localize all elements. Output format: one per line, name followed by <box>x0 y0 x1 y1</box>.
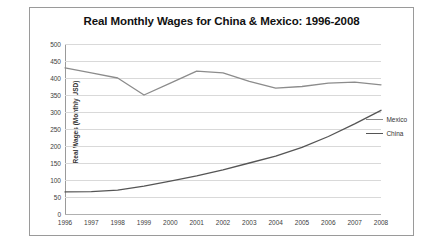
series-line-china <box>65 110 381 192</box>
x-tick-label: 1999 <box>137 219 151 226</box>
x-tick-label: 1997 <box>84 219 98 226</box>
legend-label: China <box>386 130 403 137</box>
series-line-mexico <box>65 68 381 95</box>
legend-label: Mexico <box>386 116 407 123</box>
x-tick-label: 1998 <box>110 219 124 226</box>
legend-item-china[interactable]: China <box>366 130 407 137</box>
gridline <box>65 214 381 215</box>
x-tick-label: 2008 <box>374 219 388 226</box>
x-tick-label: 2003 <box>242 219 256 226</box>
x-tick-label: 2005 <box>295 219 309 226</box>
x-tick-label: 2007 <box>347 219 361 226</box>
legend-item-mexico[interactable]: Mexico <box>366 116 407 123</box>
y-tick-label: 100 <box>50 177 61 184</box>
x-tick-label: 2006 <box>321 219 335 226</box>
y-tick-label: 150 <box>50 160 61 167</box>
y-tick-label: 50 <box>54 194 61 201</box>
x-tick-label: 2004 <box>268 219 282 226</box>
legend-swatch-china <box>366 133 383 134</box>
x-tick-label: 2000 <box>163 219 177 226</box>
y-tick-label: 400 <box>50 75 61 82</box>
chart-legend: MexicoChina <box>366 116 407 137</box>
x-tick-label: 2002 <box>216 219 230 226</box>
chart-figure: Real Monthly Wages for China & Mexico: 1… <box>29 7 414 236</box>
y-tick-label: 450 <box>50 58 61 65</box>
chart-title: Real Monthly Wages for China & Mexico: 1… <box>30 15 413 27</box>
y-tick-label: 300 <box>50 109 61 116</box>
x-tick-label: 2001 <box>189 219 203 226</box>
x-tick-label: 1996 <box>58 219 72 226</box>
y-tick-label: 350 <box>50 92 61 99</box>
plot-area: 050100150200250300350400450500 199619971… <box>65 44 381 214</box>
legend-swatch-mexico <box>366 119 383 120</box>
y-tick-label: 250 <box>50 126 61 133</box>
series-lines <box>65 44 381 214</box>
y-tick-label: 0 <box>57 211 61 218</box>
y-tick-label: 500 <box>50 41 61 48</box>
y-tick-label: 200 <box>50 143 61 150</box>
